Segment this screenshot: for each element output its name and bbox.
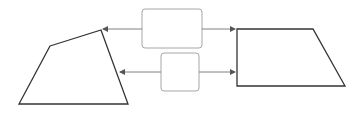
diagram-canvas	[0, 0, 354, 114]
diagram-svg	[0, 0, 354, 114]
right-trapezoid	[237, 29, 345, 86]
bottom-box	[161, 53, 199, 91]
left-quadrilateral	[19, 30, 128, 104]
center-boxes	[142, 9, 202, 91]
top-box	[142, 9, 202, 48]
